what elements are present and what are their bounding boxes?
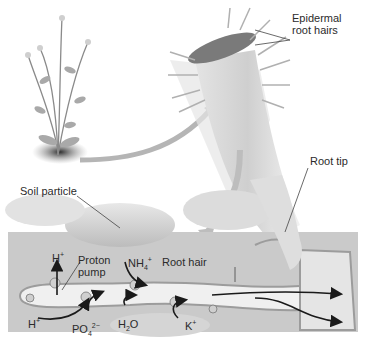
label-line: Epidermal <box>292 12 342 24</box>
ion-h2o: H2O <box>118 318 138 330</box>
ion-k-plus: K+ <box>185 320 196 332</box>
label-root-tip: Root tip <box>310 155 348 167</box>
label-line: pump <box>78 266 110 278</box>
ion-nh4: NH4+ <box>128 257 152 269</box>
label-line: root hairs <box>292 24 342 36</box>
ion-h-plus-in: H+ <box>28 318 40 330</box>
root-uptake-diagram: Epidermal root hairs Root tip Soil parti… <box>0 0 370 345</box>
label-epidermal-root-hairs: Epidermal root hairs <box>292 12 342 36</box>
ion-po4: PO42− <box>72 323 100 335</box>
label-proton-pump: Proton pump <box>78 254 110 278</box>
label-root-hair: Root hair <box>162 256 207 268</box>
ion-h-plus-out: H+ <box>52 252 64 264</box>
plant-illustration <box>25 15 91 164</box>
label-soil-particle: Soil particle <box>20 185 77 197</box>
label-line: Proton <box>78 254 110 266</box>
diagram-artwork <box>0 0 370 345</box>
zoom-arrow-plant-to-root <box>80 110 210 160</box>
